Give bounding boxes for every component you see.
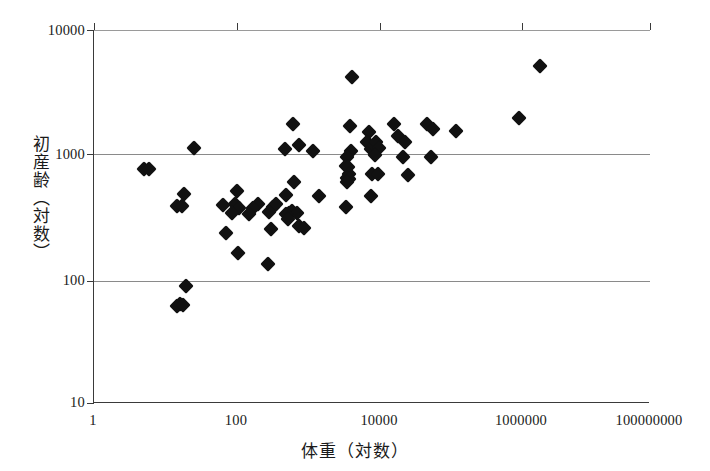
y-tick-label-10000: 10000	[0, 22, 85, 39]
x-tick-label-100000000: 100000000	[615, 412, 682, 429]
y-tick-10	[87, 403, 94, 404]
x-tick-label-100: 100	[225, 412, 247, 429]
data-point	[230, 246, 246, 262]
x-axis-title: 体重（対数）	[0, 437, 710, 462]
data-point	[423, 149, 439, 165]
data-point	[305, 143, 321, 159]
data-point	[345, 69, 361, 85]
x-tick-1	[94, 23, 95, 30]
x-tick-label-1000000: 1000000	[495, 412, 547, 429]
x-tick-100000000	[650, 23, 651, 30]
y-tick-label-100: 100	[0, 272, 85, 289]
data-point	[363, 189, 379, 205]
data-point	[448, 123, 464, 139]
data-point	[260, 256, 276, 272]
data-point	[263, 221, 279, 237]
data-point	[532, 59, 548, 75]
gridline-100	[94, 281, 650, 282]
y-tick-label-10: 10	[0, 394, 85, 411]
x-tick-label-10000: 10000	[360, 412, 397, 429]
y-tick-10000	[87, 30, 94, 31]
data-point	[400, 167, 416, 183]
data-point	[219, 225, 235, 241]
data-point	[338, 200, 354, 216]
x-tick-10000	[380, 23, 381, 30]
plot-area	[93, 30, 649, 403]
y-tick-1000	[87, 154, 94, 155]
data-point	[229, 183, 245, 199]
x-tick-100	[237, 23, 238, 30]
x-tick-1000000	[522, 23, 523, 30]
y-tick-label-1000: 1000	[0, 146, 85, 163]
data-point	[511, 111, 527, 127]
data-point	[395, 149, 411, 165]
x-tick-label-1: 1	[89, 412, 96, 429]
data-point	[285, 116, 301, 132]
data-point	[286, 174, 302, 190]
gridline-10000	[94, 30, 650, 31]
data-point	[311, 189, 327, 205]
y-tick-100	[87, 281, 94, 282]
scatter-chart: 初産齢（対数） 10000 1000 100 10 1 100 10000 10…	[0, 0, 710, 471]
data-point	[342, 118, 358, 134]
